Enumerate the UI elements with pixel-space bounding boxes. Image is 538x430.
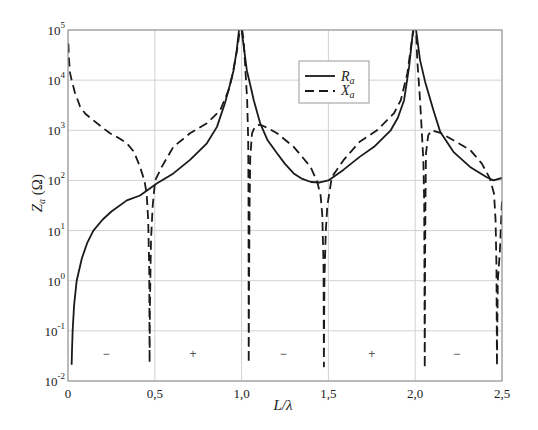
y-tick-base: 10	[48, 23, 61, 38]
y-tick-base: 10	[48, 173, 61, 188]
impedance-chart: 10-210-1100101102103104105 00,51,01,52,0…	[0, 0, 538, 430]
sign-negative-label: −	[453, 347, 460, 361]
y-axis-label: Za (Ω)	[29, 155, 47, 238]
legend: Ra Xa	[299, 61, 369, 103]
chart-background	[0, 0, 538, 430]
y-tick-exponent: 0	[61, 271, 66, 281]
y-axis-label-unit: (Ω)	[29, 174, 46, 199]
y-tick-base: 10	[48, 73, 61, 88]
sign-positive-label: +	[189, 347, 196, 361]
x-tick-label: 0,5	[147, 386, 163, 401]
x-tick-label: 2,5	[494, 386, 510, 401]
x-tick-label: 2,0	[407, 386, 423, 401]
y-tick-exponent: 5	[61, 20, 66, 30]
x-tick-label: 1,0	[233, 386, 249, 401]
sign-negative-label: −	[103, 347, 110, 361]
chart-canvas: 10-210-1100101102103104105 00,51,01,52,0…	[0, 0, 538, 430]
y-tick-exponent: 1	[61, 221, 66, 231]
y-tick-base: 10	[48, 274, 61, 289]
y-tick-base: 10	[48, 224, 61, 239]
sign-positive-label: +	[368, 347, 375, 361]
y-tick-exponent: -2	[58, 371, 66, 381]
sign-negative-label: −	[280, 347, 287, 361]
y-tick-exponent: 2	[61, 170, 66, 180]
legend-label-ra-sub: a	[350, 75, 355, 86]
legend-box	[299, 61, 369, 103]
y-tick-exponent: 4	[61, 70, 66, 80]
y-tick-base: 10	[45, 374, 58, 389]
x-tick-label: 0	[65, 386, 72, 401]
y-tick-base: 10	[48, 123, 61, 138]
y-tick-exponent: -1	[58, 321, 66, 331]
legend-label-xa-main: X	[340, 83, 350, 98]
y-tick-base: 10	[45, 324, 58, 339]
y-tick-exponent: 3	[61, 120, 66, 130]
legend-label-xa-sub: a	[350, 89, 355, 100]
x-axis-label: L/λ	[272, 397, 293, 413]
x-tick-label: 1,5	[320, 386, 336, 401]
legend-label-ra-main: R	[340, 69, 350, 84]
